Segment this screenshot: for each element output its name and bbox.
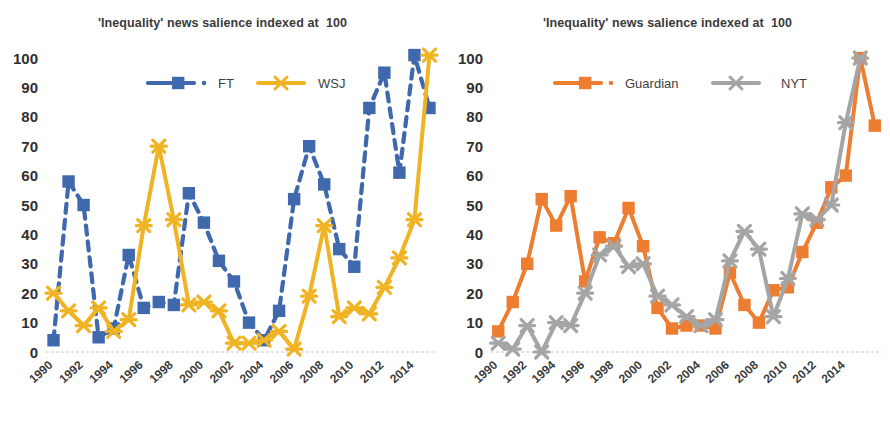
data-point-marker [183, 187, 195, 199]
data-point-marker [303, 140, 315, 152]
svg-text:2002: 2002 [207, 358, 236, 386]
y-axis-tick-label: 60 [466, 167, 483, 184]
x-axis-tick-label: 2012 [357, 358, 386, 386]
svg-text:2014: 2014 [387, 358, 416, 386]
data-point-marker [408, 49, 420, 61]
data-point-marker [198, 216, 210, 228]
data-point-marker [62, 175, 74, 187]
legend-x-marker [274, 77, 289, 89]
x-axis-tick-label: 2008 [732, 358, 761, 386]
data-point-marker [272, 325, 287, 337]
svg-text:1996: 1996 [558, 358, 587, 386]
svg-text:1992: 1992 [500, 358, 529, 386]
y-axis-tick-label: 80 [21, 108, 38, 125]
chart-plot-right: 0102030405060708090100199019921994199619… [445, 0, 890, 422]
svg-text:2012: 2012 [357, 358, 386, 386]
svg-text:2008: 2008 [297, 358, 326, 386]
legend-square-marker [172, 77, 184, 89]
x-axis-tick-label: 2014 [819, 358, 848, 386]
data-point-marker [753, 316, 765, 328]
x-axis-tick-label: 1990 [471, 358, 500, 386]
data-point-marker [153, 296, 165, 308]
charts-container: 'Inequality' news salience indexed at 10… [0, 0, 890, 422]
legend-item-nyt[interactable]: NYT [713, 76, 807, 91]
x-axis-tick-label: 2000 [177, 358, 206, 386]
legend-x-marker [729, 77, 744, 89]
y-axis-tick-label: 80 [466, 108, 483, 125]
y-axis-tick-label: 0 [475, 344, 483, 361]
svg-text:2004: 2004 [674, 358, 703, 386]
data-point-marker [61, 305, 76, 317]
x-axis-tick-label: 2010 [327, 358, 356, 386]
svg-text:2002: 2002 [645, 358, 674, 386]
svg-text:1994: 1994 [529, 358, 558, 386]
svg-text:2014: 2014 [819, 358, 848, 386]
data-point-marker [507, 296, 519, 308]
series-line-ft [54, 55, 430, 340]
y-axis-tick-label: 10 [466, 314, 483, 331]
data-point-marker [228, 275, 240, 287]
x-axis-tick-label: 1992 [500, 358, 529, 386]
x-axis-tick-label: 1996 [117, 358, 146, 386]
data-point-marker [76, 320, 91, 332]
series-line-guardian [498, 58, 875, 331]
legend-item-wsj[interactable]: WSJ [258, 76, 345, 91]
data-point-marker [362, 308, 377, 320]
svg-text:1990: 1990 [26, 358, 55, 386]
svg-text:2000: 2000 [177, 358, 206, 386]
data-point-marker [564, 190, 576, 202]
x-axis-tick-label: 2006 [703, 358, 732, 386]
legend-dot-icon [609, 81, 614, 86]
data-point-marker [840, 169, 852, 181]
data-point-marker [318, 178, 330, 190]
data-point-marker [243, 316, 255, 328]
legend-item-guardian[interactable]: Guardian [555, 76, 678, 91]
chart-panel-right: 'Inequality' news salience indexed at 10… [445, 0, 890, 422]
y-axis-tick-label: 70 [466, 138, 483, 155]
data-point-marker [378, 67, 390, 79]
x-axis-tick-label: 2004 [674, 358, 703, 386]
data-point-marker [288, 193, 300, 205]
svg-text:1990: 1990 [471, 358, 500, 386]
svg-text:2006: 2006 [267, 358, 296, 386]
y-axis-tick-label: 50 [466, 197, 483, 214]
x-axis-tick-label: 1996 [558, 358, 587, 386]
data-point-marker [347, 302, 362, 314]
svg-text:1992: 1992 [56, 358, 85, 386]
x-axis-tick-label: 2002 [207, 358, 236, 386]
x-axis-tick-label: 2008 [297, 358, 326, 386]
legend-square-marker [579, 77, 591, 89]
y-axis-tick-label: 30 [21, 255, 38, 272]
svg-text:2000: 2000 [616, 358, 645, 386]
data-point-marker [77, 199, 89, 211]
data-point-marker [796, 246, 808, 258]
y-axis-tick-label: 90 [21, 79, 38, 96]
y-axis-tick-label: 70 [21, 138, 38, 155]
y-axis-tick-label: 90 [466, 79, 483, 96]
legend-label: FT [218, 76, 234, 91]
data-point-marker [738, 299, 750, 311]
data-point-marker [622, 202, 634, 214]
svg-text:2004: 2004 [237, 358, 266, 386]
svg-text:2010: 2010 [327, 358, 356, 386]
data-point-marker [637, 240, 649, 252]
data-point-marker [138, 302, 150, 314]
data-point-marker [213, 255, 225, 267]
x-axis-tick-label: 2010 [761, 358, 790, 386]
y-axis-tick-label: 50 [21, 197, 38, 214]
data-point-marker [492, 325, 504, 337]
y-axis-tick-label: 100 [13, 50, 38, 67]
legend-item-ft[interactable]: FT [148, 76, 234, 91]
data-point-marker [505, 343, 520, 355]
data-point-marker [621, 261, 636, 273]
data-point-marker [333, 243, 345, 255]
data-point-marker [168, 299, 180, 311]
data-point-marker [242, 337, 257, 349]
x-axis-tick-label: 2004 [237, 358, 266, 386]
data-point-marker [491, 337, 506, 349]
x-axis-tick-label: 2002 [645, 358, 674, 386]
x-axis-tick-label: 2000 [616, 358, 645, 386]
svg-text:2012: 2012 [790, 358, 819, 386]
chart-panel-left: 'Inequality' news salience indexed at 10… [0, 0, 445, 422]
legend-label: Guardian [625, 76, 678, 91]
